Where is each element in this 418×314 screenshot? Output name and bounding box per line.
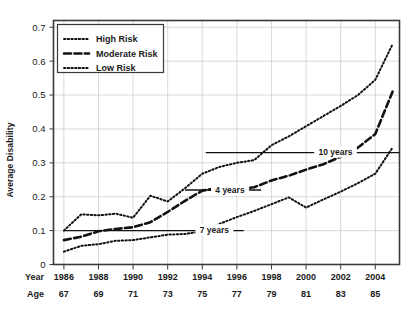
legend-label-high-risk: High Risk [96, 34, 139, 44]
y-tick-label: 0.3 [32, 157, 45, 168]
y-tick-label: 0.5 [32, 89, 45, 100]
x-tick-label: 81 [301, 289, 311, 299]
y-tick-label: 0.4 [32, 123, 45, 134]
x-tick-label: 2004 [365, 272, 385, 282]
y-tick-label: 0.2 [32, 191, 45, 202]
x-tick-label: 79 [266, 289, 276, 299]
y-axis-label: Average Disability [5, 122, 15, 197]
annotation-label: 7 years [200, 225, 230, 235]
x-tick-label: 83 [336, 289, 346, 299]
x-tick-label: 1990 [123, 272, 143, 282]
y-tick-label: 0.7 [32, 22, 45, 33]
average-disability-line-chart: Average Disability 00.10.20.30.40.50.60.… [0, 0, 418, 314]
legend: High RiskModerate RiskLow Risk [58, 25, 164, 74]
x-tick-label: 1992 [158, 272, 178, 282]
x-tick-label: 1986 [54, 272, 74, 282]
x-tick-label: 85 [370, 289, 380, 299]
x-tick-label: 1988 [88, 272, 108, 282]
x-tick-label: 77 [232, 289, 242, 299]
y-tick-label: 0 [40, 259, 45, 270]
x-tick-label: 75 [197, 289, 207, 299]
x-tick-label: 71 [128, 289, 138, 299]
x-tick-label: 67 [59, 289, 69, 299]
x-tick-label: 73 [163, 289, 173, 299]
x-tick-label: 1996 [227, 272, 247, 282]
y-tick-label: 0.1 [32, 225, 45, 236]
x-tick-label: 1994 [192, 272, 212, 282]
y-tick-label: 0.6 [32, 56, 45, 67]
x-tick-label: 1998 [261, 272, 281, 282]
x-tick-label: 69 [93, 289, 103, 299]
x-tick-label: 2002 [331, 272, 351, 282]
annotation-label: 4 years [215, 185, 245, 195]
annotation-label: 10 years [318, 147, 352, 157]
x-tick-label: 2000 [296, 272, 316, 282]
legend-label-moderate-risk: Moderate Risk [96, 49, 159, 59]
x-axis-row-header-year: Year [25, 272, 45, 282]
legend-label-low-risk: Low Risk [96, 63, 137, 73]
x-axis-row-header-age: Age [27, 289, 44, 299]
